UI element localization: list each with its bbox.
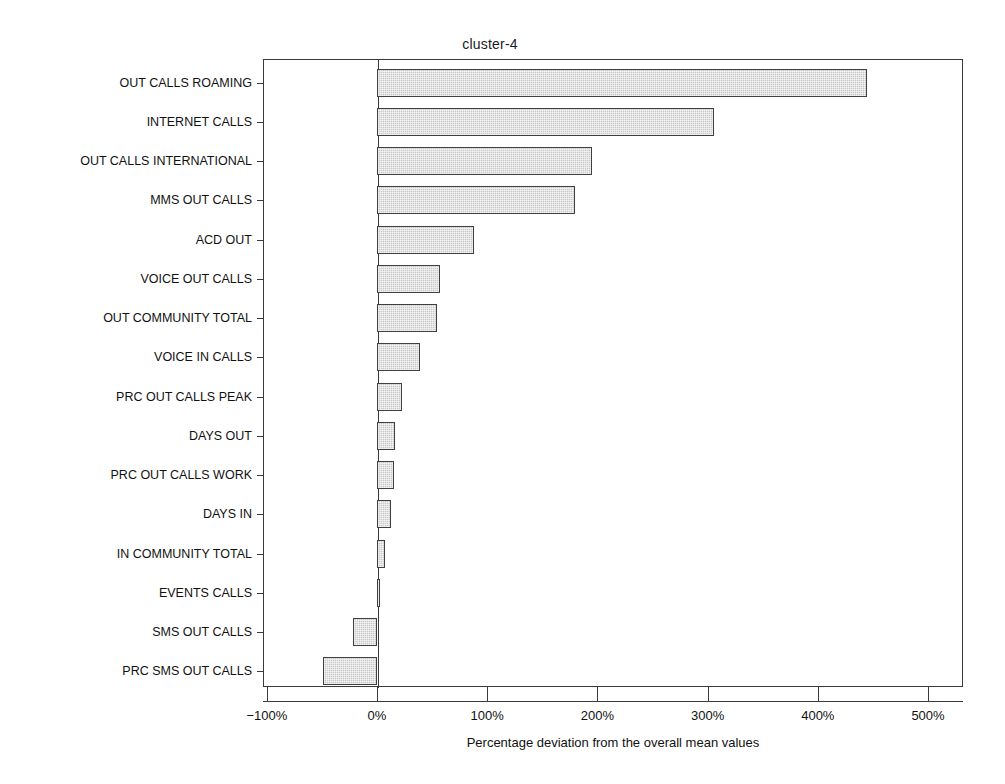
y-axis-tick (257, 318, 263, 319)
y-axis-tick (257, 122, 263, 123)
bar (377, 540, 385, 568)
x-axis-tick-label: 400% (778, 708, 858, 723)
bar (377, 500, 391, 528)
y-axis-tick-label: INTERNET CALLS (0, 115, 252, 129)
bar (323, 657, 377, 685)
bar (377, 304, 437, 332)
y-axis-tick (257, 436, 263, 437)
y-axis-tick-label: VOICE IN CALLS (0, 350, 252, 364)
bar (377, 422, 395, 450)
bar (377, 343, 420, 371)
x-axis-tick (928, 687, 929, 701)
y-axis-tick-label: SMS OUT CALLS (0, 625, 252, 639)
bar (377, 186, 575, 214)
bar (377, 461, 394, 489)
y-axis-tick (257, 554, 263, 555)
y-axis-tick-label: PRC OUT CALLS WORK (0, 468, 252, 482)
y-axis-tick-label: DAYS IN (0, 507, 252, 521)
bar (377, 147, 592, 175)
x-axis-tick (597, 687, 598, 701)
y-axis-tick-label: IN COMMUNITY TOTAL (0, 547, 252, 561)
bar (377, 108, 714, 136)
y-axis-tick (257, 671, 263, 672)
y-axis-labels: OUT CALLS ROAMINGINTERNET CALLSOUT CALLS… (0, 59, 252, 687)
y-axis-tick-label: DAYS OUT (0, 429, 252, 443)
y-axis-tick (257, 161, 263, 162)
x-axis-title: Percentage deviation from the overall me… (263, 735, 963, 750)
y-axis-tick-label: VOICE OUT CALLS (0, 272, 252, 286)
y-axis-tick (257, 397, 263, 398)
y-axis-tick (257, 240, 263, 241)
y-axis-tick-label: OUT COMMUNITY TOTAL (0, 311, 252, 325)
bar (377, 226, 474, 254)
y-axis-tick-label: EVENTS CALLS (0, 586, 252, 600)
y-axis-tick-label: PRC SMS OUT CALLS (0, 664, 252, 678)
chart-title: cluster-4 (380, 36, 600, 52)
y-axis-tick (257, 83, 263, 84)
x-axis-tick-label: 500% (888, 708, 968, 723)
x-axis-tick-label: −100% (227, 708, 307, 723)
bars-layer (263, 59, 963, 687)
y-axis-tick-label: OUT CALLS INTERNATIONAL (0, 154, 252, 168)
y-axis-tick (257, 357, 263, 358)
x-axis-tick (818, 687, 819, 701)
y-axis-tick-label: MMS OUT CALLS (0, 193, 252, 207)
y-axis-tick-label: OUT CALLS ROAMING (0, 76, 252, 90)
bar (377, 579, 380, 607)
y-axis-tick (257, 593, 263, 594)
x-axis-tick (708, 687, 709, 701)
x-axis-tick (377, 687, 378, 701)
y-axis-tick (257, 475, 263, 476)
y-axis-tick-label: ACD OUT (0, 233, 252, 247)
bar (377, 383, 402, 411)
x-axis-tick (267, 687, 268, 701)
x-axis-line (263, 701, 963, 702)
bar (377, 265, 440, 293)
bar (353, 618, 377, 646)
y-axis-tick (257, 200, 263, 201)
x-axis-tick-label: 200% (557, 708, 637, 723)
bar-chart: cluster-4 OUT CALLS ROAMINGINTERNET CALL… (0, 0, 1005, 784)
y-axis-tick (257, 279, 263, 280)
y-axis-tick (257, 514, 263, 515)
x-axis-tick-label: 300% (668, 708, 748, 723)
x-axis-tick-label: 0% (337, 708, 417, 723)
y-axis-tick (257, 632, 263, 633)
x-axis-tick-label: 100% (447, 708, 527, 723)
bar (377, 69, 867, 97)
y-axis-tick-label: PRC OUT CALLS PEAK (0, 390, 252, 404)
x-axis-tick (487, 687, 488, 701)
